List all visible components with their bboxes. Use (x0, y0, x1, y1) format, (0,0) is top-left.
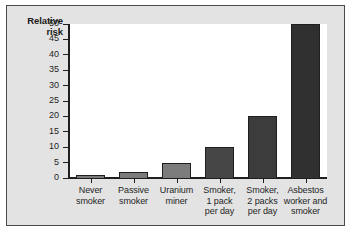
x-tick-mark (177, 179, 178, 183)
y-tick-label: 10 (37, 142, 59, 151)
y-tick-label: 35 (37, 65, 59, 74)
y-tick-label: 50 (37, 19, 59, 28)
x-tick-mark (306, 179, 307, 183)
chart-figure: Relative risk 05101520253035404550 Never… (6, 5, 345, 226)
x-axis-label: Asbestosworker andsmoker (280, 185, 331, 217)
y-tick-label: 30 (37, 81, 59, 90)
x-tick-mark (220, 179, 221, 183)
y-tick-label: 15 (37, 127, 59, 136)
bar (291, 24, 320, 178)
y-tick-mark (63, 70, 68, 71)
y-tick-mark (63, 116, 68, 117)
y-tick-mark (63, 147, 68, 148)
y-tick-label: 40 (37, 50, 59, 59)
x-axis-label-line: worker and (280, 196, 331, 207)
y-tick-mark (63, 24, 68, 25)
x-tick-mark (91, 179, 92, 183)
bar (162, 163, 191, 178)
y-tick-mark (63, 178, 68, 179)
y-tick-mark (63, 162, 68, 163)
bar (119, 172, 148, 178)
bar-series (69, 24, 327, 178)
y-tick-label: 5 (37, 158, 59, 167)
x-axis-label-line: Asbestos (280, 185, 331, 196)
bar (76, 175, 105, 178)
y-tick-mark (63, 39, 68, 40)
x-tick-mark (263, 179, 264, 183)
y-tick-label: 20 (37, 111, 59, 120)
y-tick-label: 0 (37, 173, 59, 182)
y-tick-mark (63, 54, 68, 55)
y-tick-label: 45 (37, 34, 59, 43)
y-tick-mark (63, 131, 68, 132)
x-tick-mark (134, 179, 135, 183)
bar (205, 147, 234, 178)
y-tick-label: 25 (37, 96, 59, 105)
x-axis-label-line: smoker (280, 206, 331, 217)
y-tick-mark (63, 85, 68, 86)
y-tick-mark (63, 101, 68, 102)
bar (248, 116, 277, 178)
